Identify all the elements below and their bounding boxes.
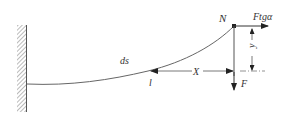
label-node: N: [218, 12, 227, 24]
label-x-distance: X: [192, 66, 200, 77]
beam-curve: [27, 26, 234, 84]
label-arc-element: ds: [120, 55, 129, 66]
diagram-canvas: N Ftgα F ds l X y: [0, 0, 286, 137]
label-y-distance: y: [246, 43, 257, 49]
label-point: l: [149, 77, 152, 88]
label-vertical-force: F: [240, 78, 248, 89]
y-dimension: [240, 29, 265, 71]
fixed-wall: [17, 25, 27, 112]
label-horizontal-force: Ftgα: [252, 11, 273, 22]
